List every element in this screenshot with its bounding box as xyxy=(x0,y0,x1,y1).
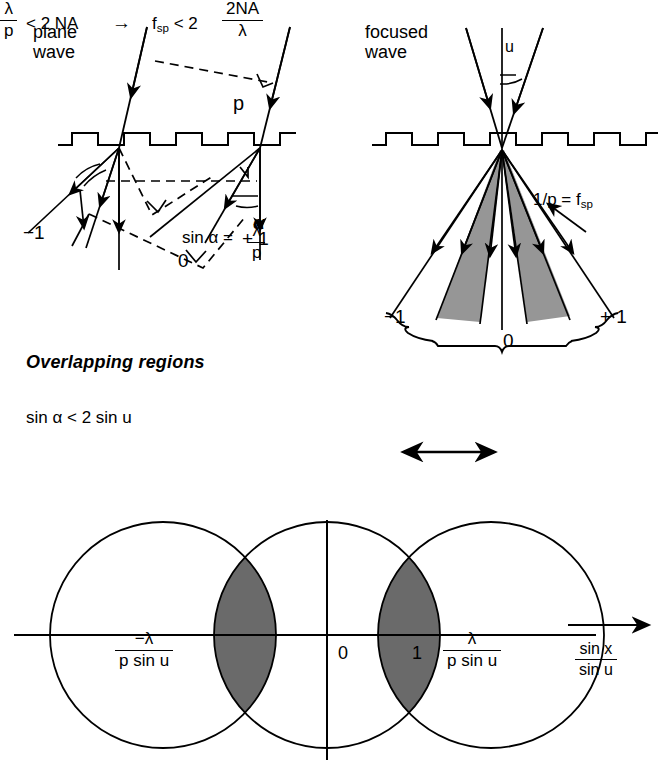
lambda-numerator: λ xyxy=(443,630,501,649)
diffracted-ray-0-right-arrow xyxy=(225,148,260,208)
optics-figure xyxy=(0,0,668,778)
period-label: p xyxy=(233,92,244,114)
lambda-over-p-fraction: λ p xyxy=(0,0,17,40)
incident-ray-right-arrow xyxy=(270,27,290,108)
p-denominator: p xyxy=(0,22,17,41)
wavefront-dashed-top xyxy=(155,61,273,83)
fsp-inequality: fsp < 2 xyxy=(152,14,198,34)
implies-arrow: → xyxy=(112,12,131,34)
angle-arc-u-2 xyxy=(500,79,522,84)
overlapping-circles-panel xyxy=(14,520,648,760)
order-label-minus1-left: −1 xyxy=(23,222,45,243)
focused-wave-title: focused wave xyxy=(365,22,428,62)
lambda-numerator: λ xyxy=(0,0,17,19)
neg-lambda-over-psinu: −λ p sin u xyxy=(115,630,173,670)
short-ray-dashed-left-arrow xyxy=(80,190,84,228)
order-label-zero-right: 0 xyxy=(503,330,514,351)
order-label-minus1-right: −1 xyxy=(384,306,406,327)
2na-over-lambda-fraction: 2NA λ xyxy=(222,0,263,40)
u-angle-label: u xyxy=(505,38,514,56)
lambda-over-psinu: λ p sin u xyxy=(443,630,501,670)
right-angle-mark-low xyxy=(186,250,206,262)
brace-order-zero xyxy=(432,341,572,352)
inequality-sin: sin α < 2 sin u xyxy=(26,408,132,427)
spatial-frequency-label: 1/p = fsp xyxy=(533,190,593,211)
psinu-denominator: p sin u xyxy=(115,652,173,671)
less-than-2na: < 2 NA xyxy=(26,14,78,34)
origin-label: 0 xyxy=(338,643,348,663)
sin-alpha-equation: sin α = λ p xyxy=(248,222,265,262)
unit-label: 1 xyxy=(412,643,422,663)
order-label-zero-left: 0 xyxy=(178,250,189,271)
grating-right xyxy=(372,133,658,145)
sin-alpha-lead: sin α = xyxy=(182,229,233,248)
short-ray-dashed-left xyxy=(72,214,89,246)
sinu-denominator: sin u xyxy=(575,661,617,679)
order-label-plus1-right: + 1 xyxy=(600,306,627,327)
right-angle-mark-top xyxy=(257,74,273,87)
sin-alpha-numerator: λ xyxy=(248,222,265,241)
sin-alpha-denominator: p xyxy=(248,244,265,263)
sinx-over-sinu-axis-label: sin x sin u xyxy=(575,640,617,678)
incident-ray-converging-right-arrow xyxy=(514,28,543,113)
sinx-numerator: sin x xyxy=(575,640,617,658)
incident-ray-converging-left-arrow xyxy=(466,28,490,108)
fraction-bar xyxy=(575,659,617,660)
section-heading: Overlapping regions xyxy=(26,352,205,372)
angle-arc-alpha-2 xyxy=(236,206,258,207)
focused-wave-panel xyxy=(372,28,658,352)
lambda-denominator: λ xyxy=(222,22,263,41)
right-angle-mark-mid xyxy=(147,200,166,212)
incident-ray-left-arrow xyxy=(131,27,147,97)
neg-lambda-numerator: −λ xyxy=(115,630,173,649)
through-ray-left xyxy=(150,148,260,237)
2na-numerator: 2NA xyxy=(222,0,263,19)
psinu-denominator: p sin u xyxy=(443,652,501,671)
